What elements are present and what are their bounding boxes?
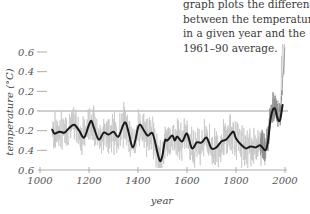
y-tick-label: 0.4 [18,145,34,156]
x-tick-label: 1400 [125,175,151,186]
x-axis-title: year [150,195,175,206]
y-tick-label: 0.2 [18,86,34,97]
y-tick-label: 0.4 [18,66,34,77]
annual-series-line [52,44,285,168]
x-tick-label: 1200 [76,175,102,186]
x-tick-label: 2000 [271,175,298,186]
annual-series [52,44,285,168]
y-tick-label: 0.6 [18,47,35,58]
y-axis-title: temperature (°C) [4,68,15,155]
x-tick-label: 1800 [223,175,249,186]
y-tick-label: 0.0 [18,106,35,117]
x-tick-label: 1000 [27,175,53,186]
y-tick-label: -0.2 [15,125,34,136]
x-axis: 100012001400160018002000 [27,167,298,186]
y-tick-label: 0.6 [18,165,35,176]
temperature-chart: 0.60.40.20.0-0.20.40.6 10001200140016001… [0,0,310,214]
x-tick-label: 1600 [174,175,200,186]
